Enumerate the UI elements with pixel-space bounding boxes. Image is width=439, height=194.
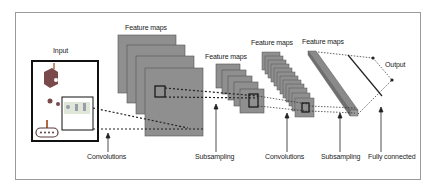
- stage-label-convolutions-1: Convolutions: [87, 153, 126, 160]
- cnn-diagram: [0, 0, 439, 194]
- output-label: Output: [385, 61, 405, 68]
- feature-maps-1-label: Feature maps: [125, 24, 167, 31]
- stage-label-subsampling-2: Subsampling: [321, 153, 360, 160]
- input-label: Input: [53, 47, 68, 54]
- feature-maps-4-label: Feature maps: [302, 38, 344, 45]
- fully-connected-layer: [348, 55, 382, 96]
- feature-maps-2: [216, 64, 264, 113]
- stage-label-fully-connected: Fully connected: [368, 153, 416, 160]
- stage-label-convolutions-2: Convolutions: [265, 153, 304, 160]
- feature-maps-3: [262, 52, 314, 117]
- feature-maps-3-label: Feature maps: [251, 39, 293, 46]
- feature-maps-2-label: Feature maps: [205, 53, 247, 60]
- stage-label-subsampling-1: Subsampling: [195, 153, 234, 160]
- input-image: [32, 61, 98, 141]
